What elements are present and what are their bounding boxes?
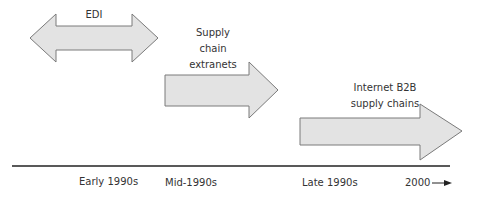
tick-late-1990s: Late 1990s — [302, 177, 358, 188]
internet-b2b-label-line-1: Internet B2B — [345, 80, 425, 96]
timeline-end-arrow-icon — [444, 180, 452, 186]
extranets-label-line-2: chain — [188, 41, 238, 57]
tick-early-1990s: Early 1990s — [79, 176, 138, 187]
internet-b2b-label-line-2: supply chains — [345, 96, 425, 112]
extranets-label-line-3: extranets — [188, 57, 238, 73]
edi-label: EDI — [79, 6, 109, 23]
internet-b2b-label: Internet B2B supply chains — [345, 80, 425, 112]
tick-mid-1990s: Mid-1990s — [165, 177, 217, 188]
extranets-label-line-1: Supply — [188, 25, 238, 41]
internet-b2b-arrow — [300, 104, 462, 160]
extranets-label: Supply chain extranets — [188, 25, 238, 73]
tick-2000: 2000 — [405, 177, 430, 188]
